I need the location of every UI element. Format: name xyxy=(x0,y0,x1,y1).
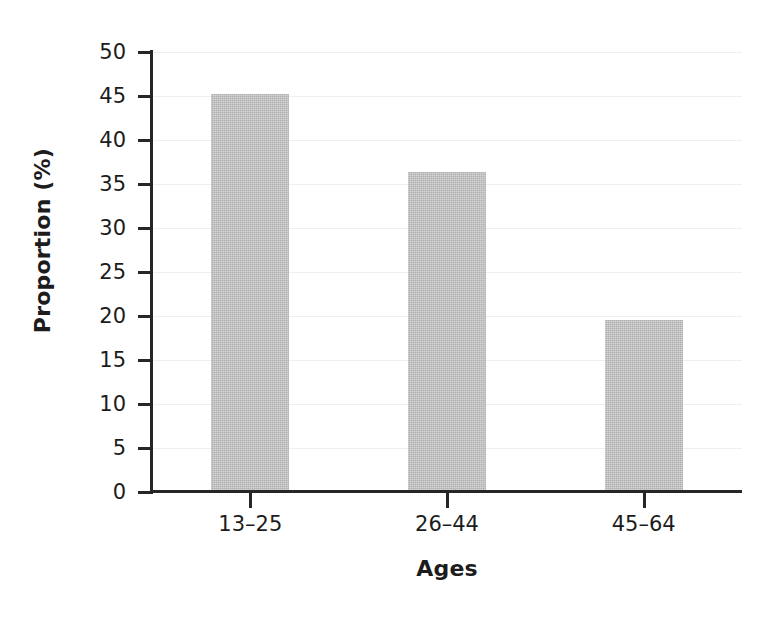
x-axis-tick xyxy=(249,493,252,508)
x-axis-title: Ages xyxy=(152,556,742,581)
y-axis-tick-label: 40 xyxy=(78,128,126,152)
y-axis-tick xyxy=(138,51,152,54)
y-axis-tick xyxy=(138,139,152,142)
y-axis-title: Proportion (%) xyxy=(30,91,55,391)
x-axis-tick-label: 13–25 xyxy=(160,512,340,536)
x-axis-tick xyxy=(643,493,646,508)
y-axis-tick xyxy=(138,359,152,362)
y-axis-tick-label: 15 xyxy=(78,348,126,372)
y-axis-tick xyxy=(138,95,152,98)
y-axis-tick xyxy=(138,183,152,186)
bar-chart-figure: Proportion (%) 05101520253035404550 13–2… xyxy=(0,0,770,622)
y-axis-tick-label: 20 xyxy=(78,304,126,328)
y-axis-tick-label: 10 xyxy=(78,392,126,416)
x-axis-tick-label: 45–64 xyxy=(554,512,734,536)
gridline xyxy=(152,52,742,53)
plot-area xyxy=(152,52,742,492)
y-axis-tick-label: 0 xyxy=(78,480,126,504)
y-axis-tick-label: 50 xyxy=(78,40,126,64)
y-axis-tick-label: 5 xyxy=(78,436,126,460)
y-axis-tick-label: 35 xyxy=(78,172,126,196)
y-axis-tick-label: 30 xyxy=(78,216,126,240)
y-axis-tick xyxy=(138,447,152,450)
y-axis-tick xyxy=(138,315,152,318)
y-axis-tick-label: 25 xyxy=(78,260,126,284)
y-axis-tick xyxy=(138,403,152,406)
y-axis-tick-label: 45 xyxy=(78,84,126,108)
bar xyxy=(408,172,486,492)
x-axis-tick-label: 26–44 xyxy=(357,512,537,536)
y-axis-tick xyxy=(138,271,152,274)
y-axis-tick xyxy=(138,491,152,494)
y-axis-tick xyxy=(138,227,152,230)
bar xyxy=(605,320,683,492)
bar xyxy=(211,94,289,492)
x-axis-tick xyxy=(446,493,449,508)
